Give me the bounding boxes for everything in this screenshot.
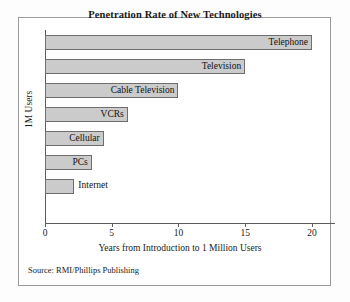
bar-row: Cellular	[45, 131, 332, 146]
bar-label: Cellular	[69, 131, 100, 146]
bar-series: TelephoneTelevisionCable TelevisionVCRsC…	[45, 32, 332, 223]
bar: Cellular	[45, 131, 104, 146]
bar-label: Internet	[78, 178, 108, 193]
bar-row: PCs	[45, 155, 332, 170]
chart-title: Penetration Rate of New Technologies	[0, 9, 350, 20]
bar-label: Cable Television	[111, 83, 175, 98]
x-tick	[245, 223, 246, 227]
bar-row: Telephone	[45, 35, 332, 50]
bar-label: PCs	[72, 155, 87, 170]
bar-label: Telephone	[269, 35, 308, 50]
x-tick	[112, 223, 113, 227]
bar-row: Cable Television	[45, 83, 332, 98]
bar: Cable Television	[45, 83, 178, 98]
bar: VCRs	[45, 107, 128, 122]
x-tick	[45, 223, 46, 227]
source-note: Source: RMI/Phillips Publishing	[28, 265, 139, 275]
x-tick-label: 5	[109, 228, 114, 238]
bar: PCs	[45, 155, 92, 170]
bar	[45, 179, 74, 194]
plot-area: TelephoneTelevisionCable TelevisionVCRsC…	[45, 32, 332, 223]
x-tick-label: 20	[307, 228, 317, 238]
bar-row: VCRs	[45, 107, 332, 122]
bar-label: VCRs	[101, 107, 124, 122]
chart-figure: Penetration Rate of New Technologies 1M …	[0, 0, 350, 302]
x-axis-line	[45, 223, 335, 224]
x-tick-label: 10	[174, 228, 184, 238]
bar-row: Television	[45, 59, 332, 74]
x-tick	[312, 223, 313, 227]
x-tick-label: 0	[43, 228, 48, 238]
x-tick	[178, 223, 179, 227]
bar: Telephone	[45, 35, 312, 50]
y-axis-title: 1M Users	[24, 91, 34, 128]
x-axis-title: Years from Introduction to 1 Million Use…	[45, 243, 315, 253]
bar-label: Television	[202, 59, 241, 74]
bar: Television	[45, 59, 245, 74]
bar-row: Internet	[45, 179, 332, 194]
x-tick-label: 15	[240, 228, 250, 238]
